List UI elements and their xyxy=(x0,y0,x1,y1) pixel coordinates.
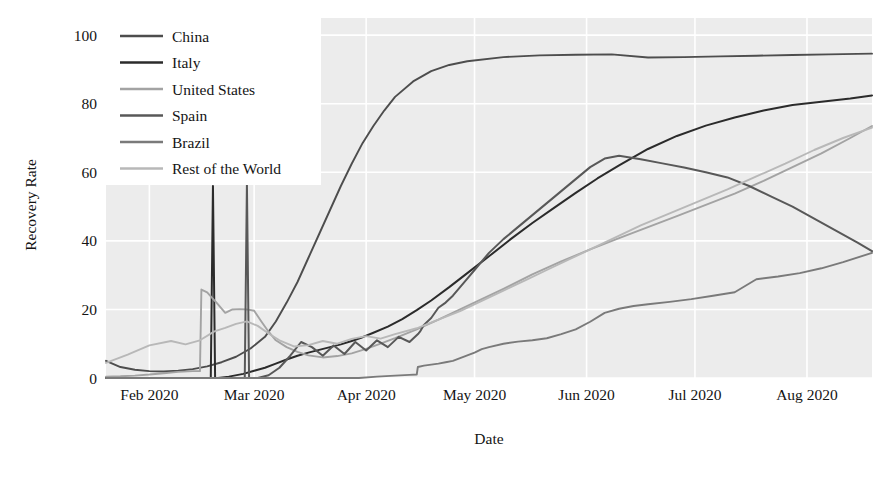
y-tick-label: 100 xyxy=(74,27,98,44)
x-tick-label: May 2020 xyxy=(443,386,507,403)
x-tick-label: Feb 2020 xyxy=(120,386,178,403)
legend-label-italy: Italy xyxy=(172,54,201,71)
chart-figure: 020406080100 Feb 2020Mar 2020Apr 2020May… xyxy=(0,0,882,481)
y-tick-label: 40 xyxy=(82,232,98,249)
y-axis-title: Recovery Rate xyxy=(22,159,39,251)
x-tick-label: Aug 2020 xyxy=(776,386,838,403)
x-axis-tick-labels: Feb 2020Mar 2020Apr 2020May 2020Jun 2020… xyxy=(120,386,838,403)
x-axis-title: Date xyxy=(474,430,503,447)
x-tick-label: Jul 2020 xyxy=(668,386,721,403)
legend-label-united-states: United States xyxy=(172,81,255,98)
chart-legend: ChinaItalyUnited StatesSpainBrazilRest o… xyxy=(103,17,321,185)
x-tick-label: Mar 2020 xyxy=(224,386,285,403)
legend-label-china: China xyxy=(172,28,209,45)
x-tick-label: Apr 2020 xyxy=(337,386,396,403)
y-tick-label: 80 xyxy=(82,95,98,112)
recovery-rate-line-chart: 020406080100 Feb 2020Mar 2020Apr 2020May… xyxy=(0,0,882,481)
y-tick-label: 60 xyxy=(82,164,98,181)
y-axis-tick-labels: 020406080100 xyxy=(74,27,98,387)
legend-label-spain: Spain xyxy=(172,107,208,124)
x-tick-label: Jun 2020 xyxy=(558,386,615,403)
legend-label-brazil: Brazil xyxy=(172,134,210,151)
legend-label-rest-of-the-world: Rest of the World xyxy=(172,160,281,177)
y-tick-label: 20 xyxy=(82,301,98,318)
y-tick-label: 0 xyxy=(89,370,97,387)
